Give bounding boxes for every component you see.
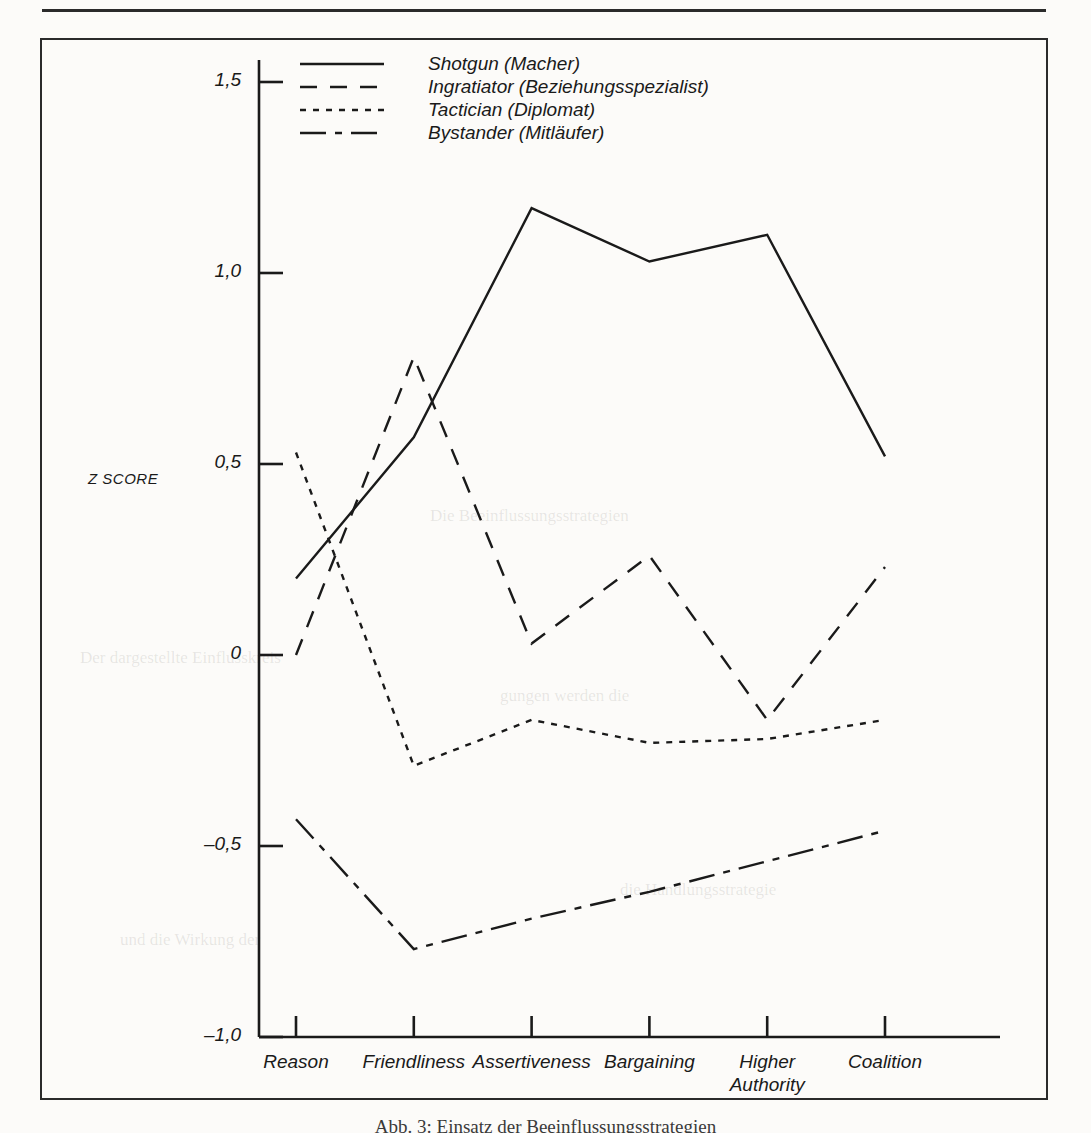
legend-item: Bystander (Mitläufer) bbox=[300, 121, 770, 144]
y-tick-label: 0,5 bbox=[171, 451, 241, 473]
y-tick-label: –1,0 bbox=[171, 1024, 241, 1046]
figure-frame bbox=[40, 38, 1048, 1100]
figure-caption: Abb. 3: Einsatz der Beeinflussungsstrate… bbox=[0, 1116, 1091, 1133]
y-tick-label: 0 bbox=[171, 642, 241, 664]
solid-line-icon bbox=[300, 56, 384, 72]
legend-label: Shotgun (Macher) bbox=[384, 53, 580, 75]
y-axis-title: Z SCORE bbox=[88, 470, 158, 487]
legend-label: Tactician (Diplomat) bbox=[384, 99, 595, 121]
legend-item: Ingratiator (Beziehungsspezialist) bbox=[300, 75, 770, 98]
dashdot-line-icon bbox=[300, 125, 384, 141]
page-top-rule bbox=[42, 9, 1046, 12]
y-tick-label: –0,5 bbox=[171, 833, 241, 855]
dashed-line-icon bbox=[300, 79, 384, 95]
legend-item: Tactician (Diplomat) bbox=[300, 98, 770, 121]
chart-legend: Shotgun (Macher)Ingratiator (Beziehungss… bbox=[300, 52, 770, 144]
legend-label: Bystander (Mitläufer) bbox=[384, 122, 604, 144]
x-tick-label: Coalition bbox=[810, 1050, 960, 1073]
legend-item: Shotgun (Macher) bbox=[300, 52, 770, 75]
y-tick-label: 1,0 bbox=[171, 260, 241, 282]
y-tick-label: 1,5 bbox=[171, 69, 241, 91]
dotted-line-icon bbox=[300, 102, 384, 118]
legend-label: Ingratiator (Beziehungsspezialist) bbox=[384, 76, 709, 98]
